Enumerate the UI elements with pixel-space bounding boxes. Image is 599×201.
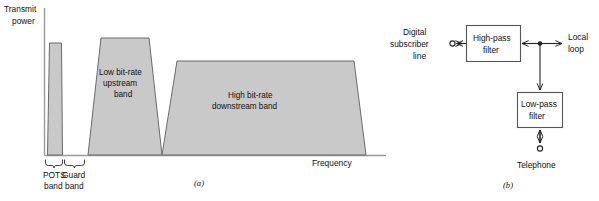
brace-pots-band bbox=[46, 160, 63, 168]
pots-band-label-line2: band bbox=[44, 181, 63, 191]
dsl-label-line3: line bbox=[413, 51, 426, 61]
upstream-band-label-line3: band bbox=[114, 90, 133, 99]
guard-band-label-line1: Guard bbox=[62, 170, 86, 180]
panel-a-caption: (a) bbox=[194, 178, 204, 188]
dsl-label-line2: subscriber bbox=[390, 39, 429, 49]
dsl-terminal-circle bbox=[450, 41, 455, 46]
downstream-band-label-line1: High bit-rate bbox=[228, 91, 273, 100]
panel-b-splitter: High-pass filter Low-pass filter Digital… bbox=[390, 26, 588, 191]
panel-a-spectrum: Transmit power Frequency Low bit-rate up… bbox=[4, 4, 386, 191]
local-loop-label-line2: loop bbox=[568, 44, 584, 54]
dsl-label-line1: Digital bbox=[403, 27, 426, 37]
guard-band-label-line2: band bbox=[65, 181, 84, 191]
adsl-spectrum-and-splitter-figure: Transmit power Frequency Low bit-rate up… bbox=[0, 0, 599, 201]
high-pass-filter-box bbox=[467, 26, 521, 62]
telephone-terminal-circle bbox=[537, 146, 542, 151]
high-pass-filter-label-line2: filter bbox=[483, 45, 499, 55]
low-pass-filter-label-line2: filter bbox=[529, 111, 545, 121]
figure-canvas: Transmit power Frequency Low bit-rate up… bbox=[0, 0, 599, 201]
telephone-label: Telephone bbox=[517, 160, 556, 170]
x-axis-label: Frequency bbox=[312, 158, 352, 168]
downstream-band-label-line2: downstream band bbox=[212, 102, 278, 111]
y-axis-label-line2: power bbox=[12, 16, 35, 26]
high-pass-filter-label-line1: High-pass bbox=[473, 33, 511, 43]
upstream-band-label-line2: upstream bbox=[103, 79, 137, 88]
upstream-band-label-line1: Low bit-rate bbox=[99, 68, 142, 77]
brace-guard-band bbox=[65, 160, 85, 168]
low-pass-filter-label-line1: Low-pass bbox=[521, 99, 557, 109]
low-pass-filter-box bbox=[518, 93, 563, 128]
y-axis-label-line1: Transmit bbox=[4, 4, 37, 14]
local-loop-label-line1: Local bbox=[568, 32, 588, 42]
band-shape-pots bbox=[48, 43, 63, 155]
panel-b-caption: (b) bbox=[503, 180, 513, 190]
